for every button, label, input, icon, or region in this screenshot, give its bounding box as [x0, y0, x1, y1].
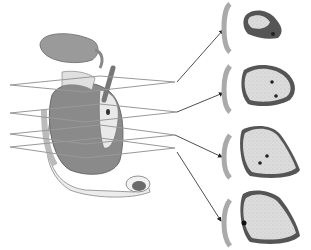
pancreas-head	[44, 83, 123, 175]
cross-section-4	[224, 191, 300, 246]
arrows	[175, 30, 223, 221]
anatomy-figure	[0, 0, 311, 250]
cross-section-3	[224, 126, 300, 178]
cross-section-2	[224, 65, 295, 112]
cross-section-1	[224, 4, 282, 52]
figure-svg	[0, 0, 311, 250]
